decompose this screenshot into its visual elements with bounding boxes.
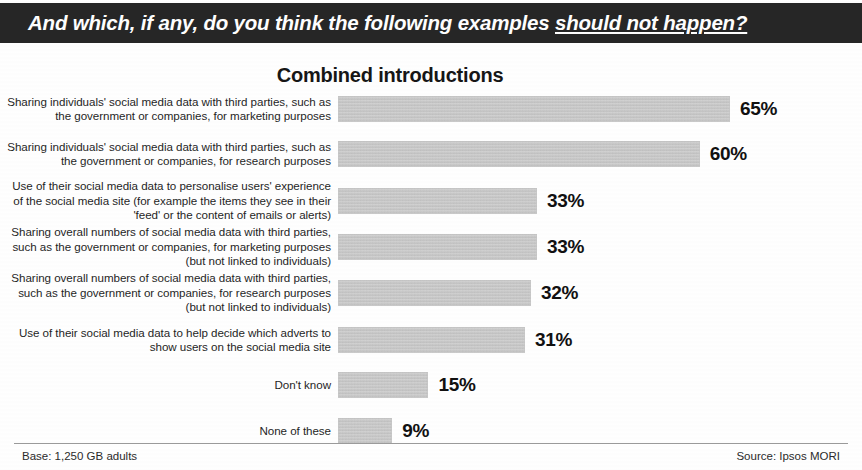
footer-source-note: Source: Ipsos MORI: [736, 450, 840, 462]
bar: [338, 234, 537, 260]
page-title: And which, if any, do you think the foll…: [28, 11, 747, 35]
bar-row: Sharing overall numbers of social media …: [0, 232, 862, 262]
bar-row-plot: 65%: [335, 96, 862, 122]
bar-row: Use of their social media data to help d…: [0, 325, 862, 355]
bar-row-label: Sharing individuals' social media data w…: [0, 95, 335, 124]
bar-row-label: None of these: [0, 424, 335, 438]
bar-value-label: 15%: [438, 374, 475, 396]
bar-value-label: 33%: [547, 236, 584, 258]
bar: [338, 327, 525, 353]
bar-row-label: Use of their social media data to help d…: [0, 326, 335, 355]
bar-row-plot: 32%: [335, 280, 862, 306]
bar-row-label: Sharing overall numbers of social media …: [0, 225, 335, 268]
bar-row-plot: 33%: [335, 234, 862, 260]
footer-base-note: Base: 1,250 GB adults: [22, 450, 137, 462]
bar-row-plot: 33%: [335, 188, 862, 214]
bar: [338, 96, 730, 122]
bar-row: Use of their social media data to person…: [0, 186, 862, 216]
bar: [338, 188, 537, 214]
bar-row-plot: 60%: [335, 141, 862, 167]
bar-row: None of these9%: [0, 416, 862, 446]
bar-row: Sharing individuals' social media data w…: [0, 139, 862, 169]
bar-row: Sharing individuals' social media data w…: [0, 94, 862, 124]
page-title-emphasis: should not happen?: [555, 11, 747, 34]
bar-value-label: 31%: [535, 329, 572, 351]
chart-title: Combined introductions: [0, 64, 780, 87]
bar-row: Sharing overall numbers of social media …: [0, 278, 862, 308]
bar: [338, 141, 700, 167]
bar-row-label: Sharing overall numbers of social media …: [0, 271, 335, 314]
bar-value-label: 65%: [740, 98, 777, 120]
bar-row-label: Sharing individuals' social media data w…: [0, 140, 335, 169]
bar-value-label: 33%: [547, 190, 584, 212]
bar-value-label: 60%: [710, 143, 747, 165]
page-title-lead: And which, if any, do you think the foll…: [28, 11, 555, 34]
bar-chart: Sharing individuals' social media data w…: [0, 88, 862, 436]
bar: [338, 280, 531, 306]
bar-row-label: Use of their social media data to person…: [0, 179, 335, 222]
bar-row-label: Don't know: [0, 378, 335, 392]
bar: [338, 418, 392, 444]
bar-value-label: 9%: [402, 420, 429, 442]
bar-row-plot: 15%: [335, 372, 862, 398]
bar: [338, 372, 428, 398]
bar-row-plot: 9%: [335, 418, 862, 444]
bar-row-plot: 31%: [335, 327, 862, 353]
bar-row: Don't know15%: [0, 370, 862, 400]
header-band: And which, if any, do you think the foll…: [0, 3, 862, 43]
bar-value-label: 32%: [541, 282, 578, 304]
footer-divider: [14, 443, 848, 444]
